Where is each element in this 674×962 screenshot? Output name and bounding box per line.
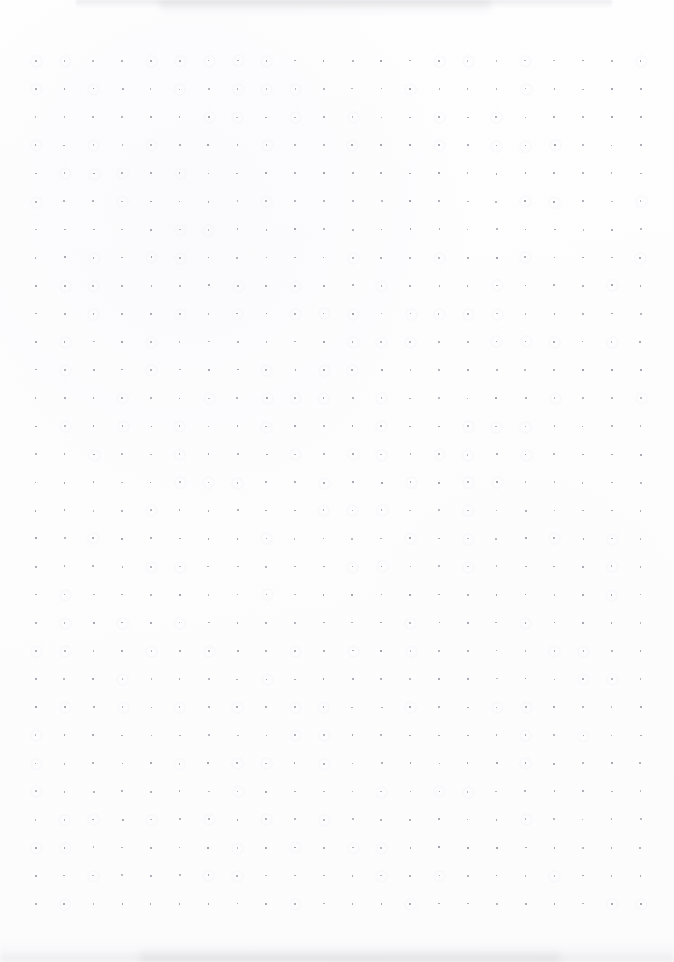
grid-dot — [611, 538, 613, 540]
grid-dot — [351, 594, 353, 596]
grid-dot — [467, 594, 469, 596]
grid-dot — [294, 117, 296, 119]
dot-scan-halo — [433, 111, 446, 124]
grid-dot — [611, 397, 613, 399]
grid-dot — [93, 903, 95, 905]
dot-scan-halo — [261, 673, 274, 686]
dot-scan-halo — [606, 336, 619, 349]
grid-dot — [35, 706, 37, 708]
grid-dot — [467, 566, 469, 568]
grid-dot — [323, 566, 325, 568]
grid-dot — [150, 116, 152, 118]
grid-dot — [410, 847, 412, 849]
grid-dot — [122, 678, 124, 680]
grid-dot — [35, 875, 37, 877]
grid-dot — [93, 369, 95, 371]
grid-dot — [352, 791, 354, 793]
dot-scan-halo — [317, 504, 330, 517]
dot-scan-halo — [491, 476, 504, 489]
dot-scan-halo — [30, 645, 43, 658]
grid-dot — [93, 481, 95, 483]
dot-scan-halo — [58, 898, 71, 911]
grid-dot — [352, 172, 354, 174]
grid-dot — [64, 537, 66, 539]
dot-scan-halo — [491, 308, 504, 321]
grid-dot — [208, 622, 210, 624]
grid-dot — [35, 116, 37, 118]
grid-dot — [611, 116, 613, 118]
grid-dot — [352, 60, 354, 62]
dot-scan-halo — [433, 308, 446, 321]
grid-dot — [582, 566, 584, 568]
grid-dot — [554, 481, 556, 483]
grid-dot — [294, 650, 296, 652]
grid-dot — [323, 706, 325, 708]
grid-dot — [93, 313, 95, 315]
grid-dot — [179, 89, 181, 91]
grid-dot — [582, 257, 584, 259]
grid-dot — [35, 847, 37, 849]
grid-dot — [554, 144, 556, 146]
grid-dot — [582, 313, 584, 315]
grid-dot — [582, 762, 584, 764]
grid-dot — [294, 397, 296, 399]
grid-dot — [409, 537, 411, 539]
grid-dot — [611, 313, 613, 315]
grid-dot — [150, 229, 152, 231]
grid-dot — [611, 425, 613, 427]
grid-dot — [92, 762, 94, 764]
grid-dot — [410, 762, 412, 764]
grid-dot — [323, 678, 325, 680]
grid-dot — [352, 510, 354, 512]
grid-dot — [467, 819, 469, 821]
dot-scan-halo — [635, 898, 648, 911]
grid-dot — [352, 313, 354, 315]
grid-dot — [151, 650, 153, 652]
grid-dot — [92, 537, 94, 539]
grid-dot — [266, 594, 268, 596]
grid-dot — [582, 706, 584, 708]
dot-scan-halo — [58, 814, 71, 827]
grid-dot — [64, 763, 66, 765]
grid-dot — [524, 60, 526, 62]
grid-dot — [64, 509, 66, 511]
grid-dot — [294, 622, 296, 624]
grid-dot — [352, 284, 354, 286]
grid-dot — [496, 453, 498, 455]
grid-dot — [582, 89, 584, 91]
grid-dot — [467, 229, 469, 231]
grid-dot — [237, 341, 239, 343]
grid-dot — [121, 313, 123, 315]
grid-dot — [611, 565, 613, 567]
grid-dot — [35, 257, 37, 259]
dot-scan-halo — [289, 280, 302, 293]
grid-dot — [439, 791, 441, 793]
dot-scan-halo — [433, 870, 446, 883]
dot-scan-halo — [203, 111, 216, 124]
grid-dot — [409, 88, 411, 90]
grid-dot — [495, 426, 497, 428]
grid-dot — [121, 116, 123, 118]
dot-scan-halo — [260, 83, 273, 96]
grid-dot — [64, 706, 66, 708]
grid-dot — [179, 509, 181, 511]
dot-scan-halo — [462, 561, 475, 574]
grid-dot — [467, 425, 469, 427]
grid-dot — [524, 200, 526, 202]
dot-scan-halo — [59, 364, 72, 377]
dot-scan-halo — [519, 140, 532, 153]
grid-dot — [438, 818, 440, 820]
grid-dot — [553, 734, 555, 736]
grid-dot — [207, 847, 209, 849]
grid-dot — [35, 650, 37, 652]
grid-dot — [150, 88, 152, 90]
grid-dot — [265, 622, 267, 624]
grid-dot — [323, 622, 325, 624]
dot-scan-halo — [231, 757, 244, 770]
grid-dot — [409, 60, 411, 62]
grid-dot — [582, 454, 584, 456]
grid-dot — [179, 735, 181, 737]
dot-scan-halo — [318, 477, 331, 490]
dot-scan-halo — [173, 420, 186, 433]
grid-dot — [438, 538, 440, 540]
